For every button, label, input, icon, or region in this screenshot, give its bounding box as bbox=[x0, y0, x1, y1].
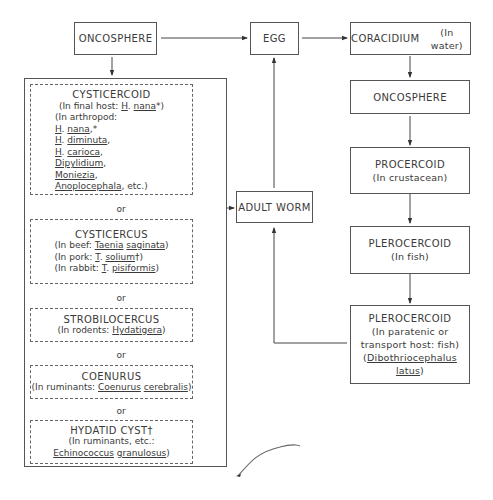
strobilocercus-label: STROBILOCERCUS bbox=[63, 314, 159, 326]
hydatid-host: (In ruminants, etc.: bbox=[68, 436, 154, 448]
coracidium-host: (In water) bbox=[424, 26, 470, 52]
procercoid-box: PROCERCOID (In crustacean) bbox=[350, 147, 470, 194]
cysticercus-label: CYSTICERCUS bbox=[75, 229, 148, 241]
or-separator: or bbox=[30, 350, 212, 360]
stray-pen-mark bbox=[238, 445, 300, 476]
cysticercus-beef: (In beef: Taenia saginata) bbox=[54, 240, 168, 252]
hydatid-cyst-box: HYDATID CYST† (In ruminants, etc.: Echin… bbox=[30, 420, 193, 464]
cysticercoid-item: H. carioca, bbox=[55, 147, 148, 159]
cysticercoid-final-host: (In final host: H. nana*) bbox=[59, 101, 164, 113]
oncosphere-label: ONCOSPHERE bbox=[79, 32, 153, 45]
egg-box: EGG bbox=[250, 22, 299, 55]
cysticercoid-box: CYSTICERCOID (In final host: H. nana*) (… bbox=[30, 84, 193, 195]
cysticercoid-item: Dipylidium, bbox=[55, 158, 148, 170]
cysticercoid-item: Moniezia, bbox=[55, 170, 148, 182]
adult-worm-label: ADULT WORM bbox=[238, 201, 311, 214]
paratenic-species: (Dibothriocephalus latus) bbox=[351, 351, 469, 377]
hydatid-species: Echinococcus granulosus) bbox=[53, 448, 170, 460]
coenurus-host: (In ruminants: Coenurus cerebralis) bbox=[32, 382, 192, 394]
right-oncosphere-label: ONCOSPHERE bbox=[373, 91, 447, 104]
paratenic-line2: transport host: fish) bbox=[361, 338, 460, 351]
paratenic-line1: (In paratenic or bbox=[372, 325, 449, 338]
coracidium-label: CORACIDIUM bbox=[351, 32, 420, 45]
plerocercoid-fish-host: (In fish) bbox=[391, 250, 429, 263]
plerocercoid-fish-box: PLEROCERCOID (In fish) bbox=[350, 226, 470, 274]
cysticercoid-arthropod: (In arthropod: bbox=[55, 112, 148, 124]
cysticercoid-label: CYSTICERCOID bbox=[72, 89, 150, 101]
right-oncosphere-box: ONCOSPHERE bbox=[350, 80, 470, 114]
plerocercoid-paratenic-label: PLEROCERCOID bbox=[369, 312, 452, 325]
cysticercoid-item: Anoplocephala, etc.) bbox=[55, 181, 148, 193]
coenurus-label: COENURUS bbox=[82, 371, 142, 383]
cysticercoid-item: H. diminuta, bbox=[55, 135, 148, 147]
egg-label: EGG bbox=[263, 32, 286, 45]
plerocercoid-fish-label: PLEROCERCOID bbox=[369, 237, 452, 250]
coracidium-box: CORACIDIUM (In water) bbox=[350, 22, 471, 55]
oncosphere-box: ONCOSPHERE bbox=[74, 22, 157, 55]
strobilocercus-host: (In rodents: Hydatigera) bbox=[57, 325, 165, 337]
procercoid-label: PROCERCOID bbox=[375, 158, 445, 171]
or-separator: or bbox=[30, 204, 212, 214]
procercoid-host: (In crustacean) bbox=[373, 171, 448, 184]
cysticercus-box: CYSTICERCUS (In beef: Taenia saginata) (… bbox=[30, 219, 193, 284]
coenurus-box: COENURUS (In ruminants: Coenurus cerebra… bbox=[30, 365, 193, 399]
hydatid-cyst-label: HYDATID CYST† bbox=[70, 425, 153, 437]
or-separator: or bbox=[30, 406, 212, 416]
strobilocercus-box: STROBILOCERCUS (In rodents: Hydatigera) bbox=[30, 308, 193, 342]
cysticercus-pork: (In pork: T. solium†) bbox=[54, 252, 168, 264]
cysticercus-rabbit: (In rabbit: T. pisiformis) bbox=[54, 263, 168, 275]
adult-worm-box: ADULT WORM bbox=[236, 191, 313, 223]
cysticercoid-item: H. nana,* bbox=[55, 124, 148, 136]
plerocercoid-paratenic-box: PLEROCERCOID (In paratenic or transport … bbox=[350, 305, 470, 384]
or-separator: or bbox=[30, 293, 212, 303]
